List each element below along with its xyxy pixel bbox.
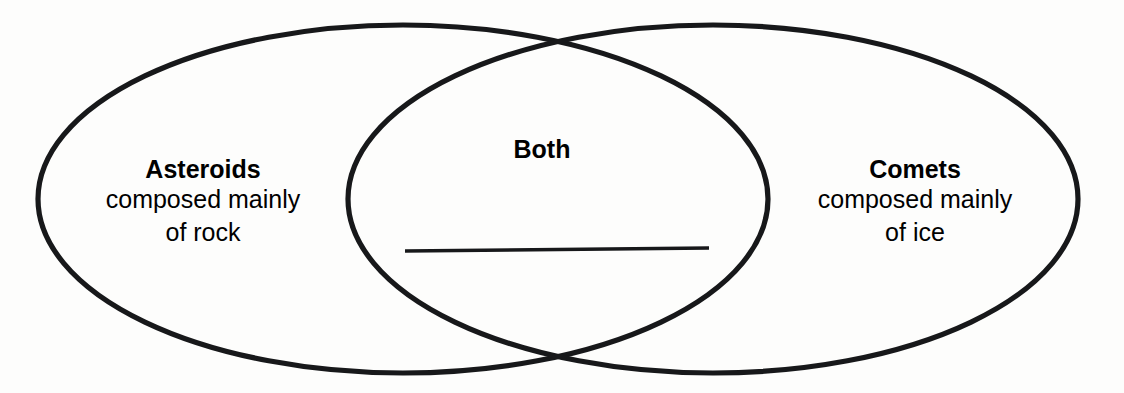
right-set-heading: Comets bbox=[790, 155, 1040, 183]
venn-labels: Asteroids composed mainly of rock Both C… bbox=[0, 0, 1124, 393]
venn-diagram: Asteroids composed mainly of rock Both C… bbox=[0, 0, 1124, 393]
intersection-heading: Both bbox=[467, 135, 617, 163]
right-set-description-line-2: of ice bbox=[790, 216, 1040, 249]
right-set-label-group: Comets composed mainly of ice bbox=[790, 155, 1040, 249]
intersection-label-group: Both bbox=[467, 135, 617, 163]
left-set-heading: Asteroids bbox=[78, 155, 328, 183]
left-set-description-line-2: of rock bbox=[78, 216, 328, 249]
left-set-description-line-1: composed mainly bbox=[78, 183, 328, 216]
left-set-label-group: Asteroids composed mainly of rock bbox=[78, 155, 328, 249]
right-set-description-line-1: composed mainly bbox=[790, 183, 1040, 216]
